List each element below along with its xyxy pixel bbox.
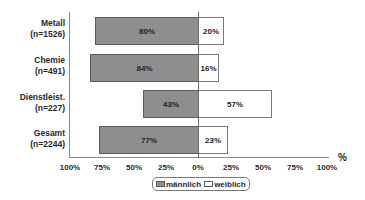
- bar-value-label: 80%: [139, 27, 155, 36]
- bar-value-label: 77%: [141, 136, 157, 145]
- bar-value-label: 57%: [227, 100, 243, 109]
- category-count: (n=1526): [0, 29, 65, 40]
- legend-item-female: weiblich: [204, 180, 246, 189]
- category-name: Dienstleist.: [0, 92, 65, 103]
- x-tick-label: 25%: [148, 163, 184, 172]
- x-axis-unit-label: %: [338, 152, 347, 163]
- bar-female-chemie: 16%: [198, 54, 219, 82]
- bar-male-metall: 80%: [95, 17, 199, 45]
- category-name: Chemie: [0, 55, 65, 66]
- legend-label: männlich: [166, 180, 201, 189]
- legend-swatch-female-icon: [204, 181, 213, 187]
- x-tick-label: 75%: [277, 163, 313, 172]
- category-count: (n=491): [0, 66, 65, 77]
- category-label-dienstleist: Dienstleist. (n=227): [0, 92, 65, 114]
- x-tick-label: 100%: [309, 163, 345, 172]
- x-tick-label: 100%: [52, 163, 88, 172]
- x-tick-label: 50%: [245, 163, 281, 172]
- category-count: (n=227): [0, 103, 65, 114]
- legend-swatch-male-icon: [156, 181, 165, 187]
- bar-male-dienstleist: 43%: [143, 90, 199, 118]
- x-tick-label: 75%: [84, 163, 120, 172]
- bar-value-label: 16%: [200, 64, 216, 73]
- bar-male-chemie: 84%: [90, 54, 199, 82]
- category-label-gesamt: Gesamt (n=2244): [0, 128, 65, 150]
- category-count: (n=2244): [0, 139, 65, 150]
- bar-female-gesamt: 23%: [198, 126, 228, 154]
- category-name: Metall: [0, 18, 65, 29]
- bar-female-dienstleist: 57%: [198, 90, 272, 118]
- bar-value-label: 20%: [203, 27, 219, 36]
- y-axis-line: [69, 12, 70, 158]
- category-name: Gesamt: [0, 128, 65, 139]
- zero-line: [198, 12, 199, 158]
- legend-label: weiblich: [214, 180, 246, 189]
- x-tick-label: 50%: [116, 163, 152, 172]
- x-tick-label: 25%: [213, 163, 249, 172]
- diverging-bar-chart: Metall (n=1526) Chemie (n=491) Dienstlei…: [0, 0, 365, 200]
- legend-item-male: männlich: [156, 180, 201, 189]
- category-label-chemie: Chemie (n=491): [0, 55, 65, 77]
- bar-male-gesamt: 77%: [99, 126, 199, 154]
- category-label-metall: Metall (n=1526): [0, 18, 65, 40]
- x-tick-label: 0%: [180, 163, 216, 172]
- bar-value-label: 43%: [163, 100, 179, 109]
- bar-value-label: 84%: [136, 64, 152, 73]
- bar-female-metall: 20%: [198, 17, 224, 45]
- legend: männlich weiblich: [152, 177, 250, 191]
- bar-value-label: 23%: [205, 136, 221, 145]
- x-axis-line: [69, 157, 329, 158]
